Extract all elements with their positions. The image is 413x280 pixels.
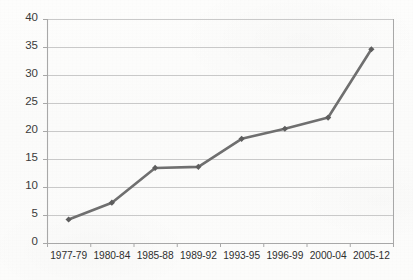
- y-axis-tick-label: 10: [12, 179, 38, 191]
- x-axis-tick-label: 2005-12: [353, 250, 390, 261]
- x-axis-tick-label: 1996-99: [267, 250, 304, 261]
- y-axis-tick-label: 20: [12, 123, 38, 135]
- x-axis-tick-label: 1993-95: [223, 250, 260, 261]
- y-axis-tick-label: 0: [12, 235, 38, 247]
- chart-container: 0510152025303540 1977-791980-841985-8819…: [0, 0, 413, 280]
- data-line-series-1: [69, 49, 372, 219]
- data-point-marker: [282, 126, 288, 132]
- x-axis-tick-label: 1985-88: [137, 250, 174, 261]
- x-axis-tick-label: 1989-92: [180, 250, 217, 261]
- y-axis-tick-label: 15: [12, 151, 38, 163]
- axis-tick-marks: [43, 20, 394, 248]
- x-axis-tick-label: 1980-84: [94, 250, 131, 261]
- y-axis-tick-label: 30: [12, 67, 38, 79]
- x-axis-tick-label: 2000-04: [310, 250, 347, 261]
- data-point-markers: [66, 46, 375, 222]
- y-axis-tick-label: 25: [12, 95, 38, 107]
- gridlines: [47, 20, 393, 244]
- y-axis-tick-label: 5: [12, 207, 38, 219]
- y-axis-tick-label: 35: [12, 39, 38, 51]
- line-chart-plot: [0, 0, 413, 280]
- y-axis-tick-label: 40: [12, 11, 38, 23]
- x-axis-tick-label: 1977-79: [50, 250, 87, 261]
